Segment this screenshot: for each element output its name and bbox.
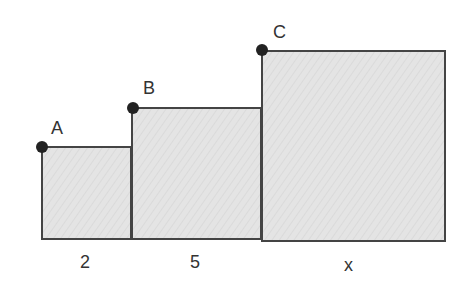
- point-c: [256, 44, 268, 56]
- side-label-2: 2: [80, 252, 90, 272]
- point-a: [36, 141, 48, 153]
- three-squares-diagram: A B C 2 5 x: [0, 0, 464, 289]
- square-b: [132, 108, 261, 239]
- square-c: [262, 51, 445, 241]
- point-c-label: C: [273, 22, 286, 42]
- point-a-label: A: [51, 118, 63, 138]
- square-a: [42, 147, 131, 239]
- point-b-label: B: [143, 78, 155, 98]
- side-label-x: x: [344, 255, 353, 275]
- point-b: [127, 102, 139, 114]
- side-label-5: 5: [190, 252, 200, 272]
